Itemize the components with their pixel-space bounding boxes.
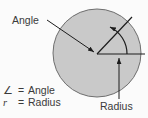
angle-symbol: ∠	[3, 84, 18, 96]
legend: ∠ = Angle r = Radius	[3, 84, 61, 108]
legend-item-radius: r = Radius	[3, 96, 61, 108]
equals-sign: =	[18, 84, 28, 96]
legend-item-angle: ∠ = Angle	[3, 84, 61, 96]
equals-sign: =	[18, 96, 28, 108]
angle-label: Angle	[12, 15, 39, 26]
radius-symbol: r	[3, 97, 18, 108]
legend-radius-text: Radius	[28, 96, 61, 108]
angle-radius-diagram: Angle Radius ∠ = Angle r = Radius	[0, 0, 148, 118]
legend-angle-text: Angle	[28, 84, 55, 96]
radius-label: Radius	[100, 101, 133, 112]
